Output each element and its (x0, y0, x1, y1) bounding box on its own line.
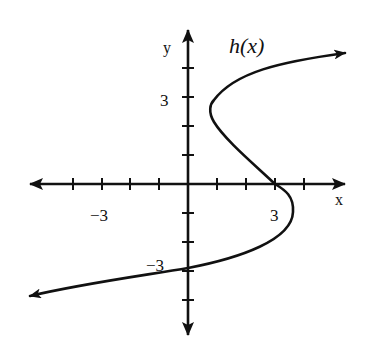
y-tick-label-pos3: 3 (160, 92, 169, 109)
graph-canvas (0, 0, 375, 349)
x-tick-label-neg3: −3 (90, 207, 108, 224)
y-axis-label: y (163, 40, 171, 56)
x-axis-label: x (335, 192, 343, 208)
x-tick-label-pos3: 3 (270, 207, 279, 224)
function-label: h(x) (229, 35, 264, 57)
y-tick-label-neg3: −3 (146, 257, 164, 274)
